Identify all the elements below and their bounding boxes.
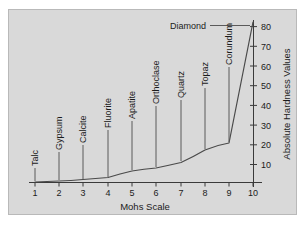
chart-panel: [8, 9, 297, 215]
